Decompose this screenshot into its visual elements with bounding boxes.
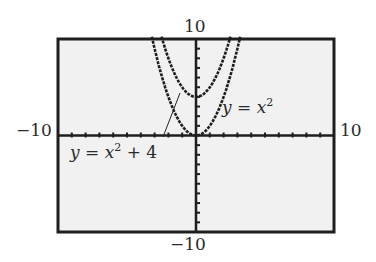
label-y-eq-x2: y = x2 [222, 96, 273, 117]
xmin-label: −10 [16, 120, 52, 140]
ymax-label: 10 [184, 16, 206, 36]
ymin-label: −10 [170, 234, 206, 254]
label-y-eq-x2-plus-4: y = x2 + 4 [70, 141, 157, 162]
xmax-label: 10 [340, 120, 362, 140]
graph-window [0, 0, 376, 262]
